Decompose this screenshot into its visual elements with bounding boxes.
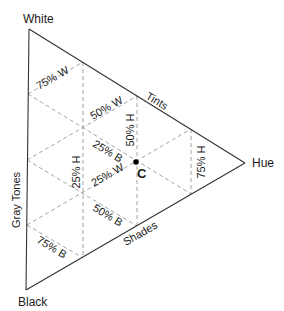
edge-label-gray-tones: Gray Tones <box>10 171 22 228</box>
color-triangle-diagram: White Black Hue Gray Tones Tints Shades … <box>0 0 284 311</box>
vertex-label-hue: Hue <box>252 156 274 170</box>
grid-label-b50: 50% B <box>91 201 125 228</box>
grid-lines <box>27 62 191 258</box>
edge-tints <box>29 29 245 163</box>
grid-label-w50: 50% W <box>88 93 125 121</box>
grid-label-w25: 25% W <box>89 160 126 188</box>
edge-shades <box>26 163 245 290</box>
grid-label-b25: 25% B <box>91 137 125 164</box>
edge-label-shades: Shades <box>121 218 160 247</box>
grid-label-w75: 75% W <box>34 63 71 91</box>
grid-label-h50: 50% H <box>124 113 136 146</box>
point-c-marker <box>133 159 139 165</box>
grid-label-h75: 75% H <box>195 145 207 178</box>
vertex-label-black: Black <box>18 295 48 309</box>
vertex-label-white: White <box>23 12 54 26</box>
point-c-label: C <box>137 166 147 181</box>
grid-label-b75: 75% B <box>35 233 69 260</box>
grid-label-h25: 25% H <box>70 155 82 188</box>
